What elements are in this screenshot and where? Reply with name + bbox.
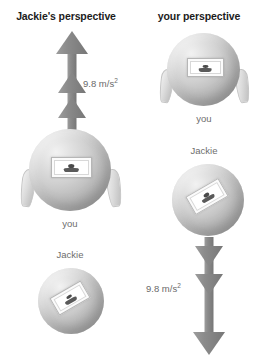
craft-you-left (29, 129, 111, 211)
occupant-body (199, 68, 212, 72)
acceleration-value-left: 9.8 m/s (83, 78, 114, 89)
occupant-figure (199, 190, 215, 204)
occupant-figure (63, 292, 78, 305)
occupant-figure (199, 65, 212, 72)
occupant-body (64, 168, 79, 172)
occupant-head (68, 164, 74, 167)
acceleration-label-right: 9.8 m/s2 (146, 283, 181, 294)
window-pane (54, 160, 89, 175)
diagram-canvas: Jackie's perspective your perspective 9.… (0, 0, 265, 361)
caption-you-left: you (30, 218, 110, 229)
viewport-window (187, 58, 224, 77)
acceleration-exponent-left: 2 (114, 77, 118, 84)
window-pane (190, 61, 221, 74)
acceleration-exponent-right: 2 (177, 282, 181, 289)
craft-jackie-left (38, 268, 104, 334)
caption-you-right: you (164, 113, 244, 124)
acceleration-arrow-down (189, 237, 229, 355)
occupant-figure (64, 164, 79, 172)
caption-jackie-right: Jackie (164, 145, 244, 156)
acceleration-label-left: 9.8 m/s2 (83, 78, 118, 89)
caption-jackie-left: Jackie (30, 249, 110, 260)
column-title-your-perspective: your perspective (133, 10, 265, 22)
acceleration-value-right: 9.8 m/s (146, 283, 177, 294)
craft-jackie-right (172, 164, 244, 236)
column-title-jackies-perspective: Jackie's perspective (0, 10, 132, 22)
viewport-window (51, 157, 92, 178)
craft-you-right (167, 33, 240, 106)
